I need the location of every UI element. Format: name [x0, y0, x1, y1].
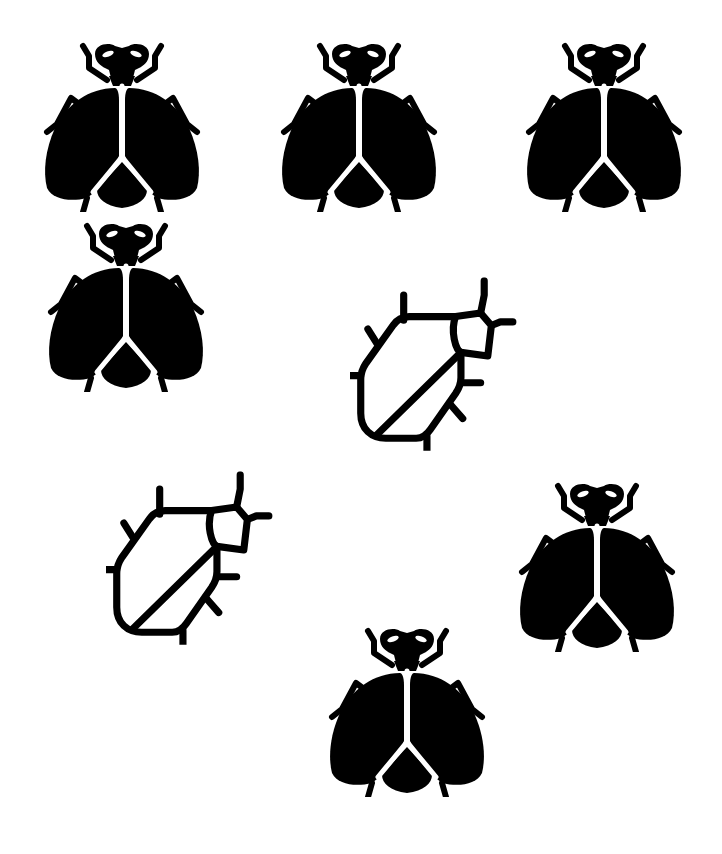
- icon-id: fly-2: [280, 212, 281, 213]
- icon-id: fly-5: [518, 652, 519, 653]
- icon-id: fly-6: [328, 797, 329, 798]
- fly-icon: fly-1: [43, 40, 201, 212]
- icon-id: fly-3: [525, 212, 526, 213]
- beetle-icon: beetle-1: [350, 268, 520, 460]
- icon-canvas: fly-1 fly-2 fly-3 fly-4 beetle-1 beetle-…: [0, 0, 722, 854]
- fly-icon: fly-3: [525, 40, 683, 212]
- fly-icon: fly-6: [328, 625, 486, 797]
- beetle-icon: beetle-2: [106, 462, 276, 654]
- icon-id: beetle-1: [350, 460, 351, 461]
- icon-id: fly-4: [47, 392, 48, 393]
- icon-id: fly-1: [43, 212, 44, 213]
- fly-icon: fly-2: [280, 40, 438, 212]
- icon-id: beetle-2: [106, 654, 107, 655]
- fly-icon: fly-4: [47, 220, 205, 392]
- fly-icon: fly-5: [518, 480, 676, 652]
